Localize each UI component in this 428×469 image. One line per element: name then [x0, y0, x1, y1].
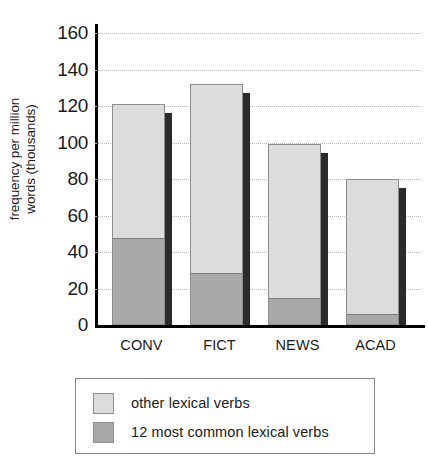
- y-tick-label-80: 80: [42, 168, 88, 190]
- bar-acad: [346, 179, 399, 325]
- bar-conv-total: [112, 104, 165, 325]
- bar-acad-common-verbs: [347, 314, 398, 324]
- bar-chart-figure: frequency per million words (thousands) …: [0, 0, 428, 469]
- y-tick-label-0: 0: [42, 314, 88, 336]
- gridline-160: [95, 33, 421, 34]
- legend-label-common-lexical-verbs: 12 most common lexical verbs: [131, 424, 329, 440]
- legend-label-other-lexical-verbs: other lexical verbs: [131, 395, 250, 411]
- bar-fict-total: [190, 84, 243, 325]
- bar-news-common-verbs: [269, 298, 320, 324]
- legend-item-common-lexical-verbs: 12 most common lexical verbs: [93, 419, 374, 445]
- legend-swatch-other-lexical-verbs: [93, 393, 114, 414]
- bar-conv: [112, 104, 165, 325]
- chart-legend: other lexical verbs 12 most common lexic…: [75, 378, 375, 454]
- y-tick-label-140: 140: [42, 59, 88, 81]
- y-tick-label-160: 160: [42, 22, 88, 44]
- plot-area: [95, 33, 421, 325]
- bar-news: [268, 144, 321, 325]
- x-tick-label-acad: ACAD: [326, 337, 425, 353]
- y-tick-label-40: 40: [42, 241, 88, 263]
- bar-acad-total: [346, 179, 399, 325]
- legend-item-other-lexical-verbs: other lexical verbs: [93, 390, 374, 416]
- legend-swatch-common-lexical-verbs: [93, 422, 114, 443]
- x-axis-line: [95, 325, 425, 328]
- bar-fict-common-verbs: [191, 273, 242, 324]
- gridline-140: [95, 70, 421, 71]
- y-axis-label-line-1: frequency per million: [7, 98, 23, 220]
- y-tick-label-100: 100: [42, 132, 88, 154]
- bar-fict-shadow: [243, 93, 250, 325]
- bar-conv-common-verbs: [113, 238, 164, 324]
- bar-conv-shadow: [165, 113, 172, 325]
- bar-acad-shadow: [399, 188, 406, 325]
- bar-fict: [190, 84, 243, 325]
- y-tick-label-20: 20: [42, 278, 88, 300]
- y-tick-label-120: 120: [42, 95, 88, 117]
- y-axis-label: frequency per million words (thousands): [0, 0, 46, 330]
- y-tick-label-60: 60: [42, 205, 88, 227]
- bar-news-shadow: [321, 153, 328, 325]
- bar-news-total: [268, 144, 321, 325]
- y-axis-label-line-2: words (thousands): [23, 104, 39, 213]
